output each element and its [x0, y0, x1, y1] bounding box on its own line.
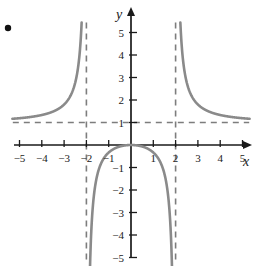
y-axis-tick-label: −2: [112, 184, 124, 196]
y-axis-tick-label: −5: [112, 252, 124, 264]
x-axis-tick-label: −4: [36, 152, 48, 164]
x-axis-tick-label: −3: [58, 152, 70, 164]
x-axis-tick-label: 1: [151, 152, 157, 164]
x-axis-tick-label: 3: [195, 152, 201, 164]
x-axis-tick-label: −2: [81, 152, 93, 164]
y-axis-label: y: [114, 7, 123, 22]
y-axis-tick-label: −4: [112, 229, 124, 241]
y-axis-tick-label: 3: [119, 72, 125, 84]
graph-figure: −5−4−3−2−112345 54321−1−2−3−4−5 x y: [0, 0, 257, 266]
y-axis-tick-label: −3: [112, 207, 124, 219]
bullet-point-marker: [5, 25, 11, 31]
y-axis-tick-label: 4: [119, 49, 125, 61]
y-axis-tick-label: 5: [119, 27, 125, 39]
y-axis-tick-label: −1: [112, 162, 124, 174]
y-axis-tick-label: 1: [119, 117, 125, 129]
x-axis-tick-label: 4: [217, 152, 223, 164]
x-axis-label: x: [242, 154, 250, 169]
y-axis-tick-label: 2: [119, 94, 125, 106]
x-axis-tick-label: 2: [173, 152, 179, 164]
x-axis-tick-label: −5: [14, 152, 26, 164]
figure-background: [0, 0, 257, 266]
